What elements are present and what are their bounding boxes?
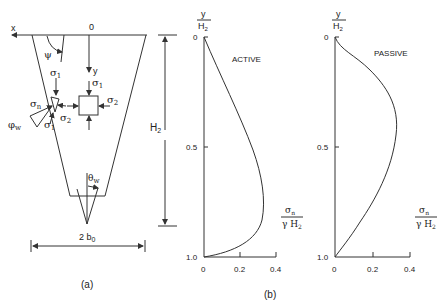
- active-ytick-10: 1.0: [186, 253, 198, 262]
- passive-xtick-0: 0: [332, 265, 337, 274]
- passive-curve: [335, 37, 397, 257]
- active-xtick-04: 0.4: [270, 265, 282, 274]
- passive-xtick-04: 0.4: [404, 265, 416, 274]
- passive-xtick-02: 0.2: [367, 265, 379, 274]
- x-axis-label: x: [11, 23, 16, 33]
- sigma-1-center: σ1: [92, 77, 103, 90]
- passive-ytick-10: 1.0: [317, 253, 329, 262]
- wall-stress-element: σ1 σ2 σn σ1 φw: [8, 67, 71, 132]
- caption-a: (a): [81, 279, 93, 290]
- caption-b: (b): [264, 289, 276, 300]
- psi-label: ψ: [44, 49, 52, 60]
- passive-xlabel-num: σn: [419, 205, 429, 216]
- passive-title: PASSIVE: [374, 49, 408, 58]
- apex-left-wall: [77, 189, 87, 224]
- active-ylabel-den: H2: [198, 21, 209, 32]
- y-axis-label: y: [93, 66, 98, 76]
- apex-right-wall: [87, 188, 98, 224]
- sigma-1-wall: σ1: [44, 119, 55, 132]
- active-chart: y H2 0 0.5 1.0 0 0.2 0.4 ACTIVE σn γ H2: [186, 9, 303, 274]
- h2-label: H2: [150, 122, 161, 134]
- passive-ylabel-den: H2: [333, 21, 344, 32]
- figure-canvas: x 0 ψ y σ1 σ2 σ1: [0, 0, 447, 304]
- stress-element: σ1 σ2: [67, 77, 118, 130]
- passive-xlabel-den: γ H2: [416, 219, 436, 230]
- friction-angle-leg: [30, 116, 37, 127]
- active-ytick-05: 0.5: [186, 143, 198, 152]
- passive-ytick-0: 0: [324, 33, 329, 42]
- active-xlabel-num: σn: [285, 205, 295, 216]
- active-curve: [204, 37, 264, 257]
- sigma-2-center: σ2: [107, 94, 118, 107]
- theta-w-label: θw: [88, 173, 99, 185]
- active-xlabel-den: γ H2: [282, 219, 302, 230]
- psi-reference-line: [61, 35, 64, 62]
- sigma-2-wall: σ2: [60, 112, 71, 125]
- theta-w-arrow: [88, 186, 98, 188]
- active-xtick-02: 0.2: [234, 265, 246, 274]
- width-label: 2 b0: [79, 232, 96, 243]
- active-ytick-0: 0: [193, 33, 198, 42]
- passive-chart: y H2 0 0.5 1.0 0 0.2 0.4 PASSIVE σn γ H2: [317, 9, 437, 274]
- origin-label: 0: [89, 22, 94, 32]
- passive-ytick-05: 0.5: [317, 143, 329, 152]
- active-xtick-0: 0: [201, 265, 206, 274]
- passive-ylabel-num: y: [336, 9, 341, 19]
- sigma-n-label: σn: [30, 98, 42, 111]
- hopper-diagram: x 0 ψ y σ1 σ2 σ1: [8, 22, 177, 290]
- active-title: ACTIVE: [232, 55, 261, 64]
- active-ylabel-num: y: [201, 9, 206, 19]
- phi-w-label: φw: [8, 119, 21, 132]
